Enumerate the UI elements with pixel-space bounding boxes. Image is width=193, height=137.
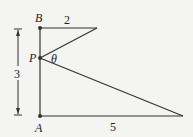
arrowhead-down-icon: [16, 108, 20, 114]
label-a: A: [34, 121, 43, 135]
point-b: [38, 26, 42, 30]
length-ba-label: 3: [14, 67, 20, 81]
geometry-diagram: B P A θ 2 5 3: [0, 0, 193, 137]
label-b: B: [35, 11, 43, 25]
arrowhead-up-icon: [16, 30, 20, 36]
length-top-label: 2: [64, 13, 70, 27]
segment-p-top: [40, 28, 97, 58]
point-a: [38, 114, 42, 118]
label-p: P: [28, 51, 37, 65]
segment-p-bottom: [40, 58, 183, 116]
length-bottom-label: 5: [110, 120, 116, 134]
angle-theta-label: θ: [51, 52, 57, 66]
point-p: [38, 56, 42, 60]
